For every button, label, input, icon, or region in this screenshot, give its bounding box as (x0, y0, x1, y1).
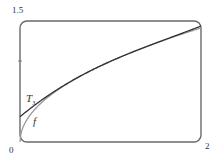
t3-label: T3 (26, 93, 35, 106)
f-label: f (33, 116, 36, 127)
f-curve (20, 28, 201, 142)
x-tick-label-right: 2 (205, 142, 210, 151)
y-tick-label-top: 1.5 (12, 6, 23, 15)
plot-frame (20, 21, 201, 142)
plot (0, 0, 215, 156)
t3-label-sub: 3 (32, 100, 35, 106)
x-tick-label-origin: 0 (9, 146, 14, 155)
t3-curve (20, 26, 201, 117)
